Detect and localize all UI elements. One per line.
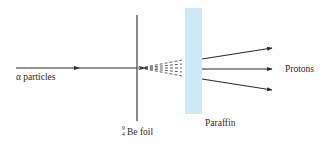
alpha-beryllium-paraffin-diagram: α particles Protons Paraffin 9 4 Be foil (0, 0, 332, 144)
be-foil-label: 9 4 Be foil (122, 125, 153, 137)
proton-arrows (202, 48, 272, 90)
alpha-particles-label: α particles (16, 72, 56, 82)
proton-arrow-up (202, 48, 272, 59)
paraffin-slab (185, 8, 202, 114)
neutron-fan (140, 60, 182, 76)
alpha-beam-arrow-icon (74, 66, 80, 70)
protons-label: Protons (285, 64, 314, 74)
be-atomic-number: 4 (122, 131, 125, 137)
be-foil-text: Be foil (127, 127, 153, 137)
paraffin-label: Paraffin (205, 118, 236, 128)
proton-arrow-down (202, 79, 272, 90)
